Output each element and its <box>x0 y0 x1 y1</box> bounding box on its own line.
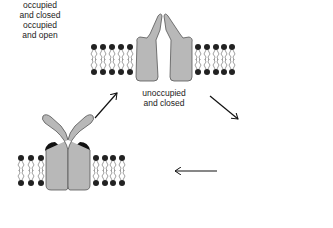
state-unoccupied-closed <box>91 14 235 81</box>
lipid-bilayer-left <box>91 44 133 75</box>
arrow-to-unoccupied-closed <box>95 93 117 118</box>
state-occupied-closed <box>18 115 125 190</box>
channel-gating-diagram: unoccupied and closed <box>0 0 333 228</box>
arrow-to-occupied-open <box>210 96 238 119</box>
lipid-bilayer-right <box>195 44 235 75</box>
channel-subunit-left <box>136 14 162 81</box>
state-label-unoccupied-closed: unoccupied and closed <box>124 88 204 108</box>
label-line1: unoccupied <box>124 88 204 98</box>
channel-subunit-right <box>68 115 94 190</box>
lipid-bilayer-left <box>18 155 44 186</box>
channel-subunit-right <box>164 14 192 81</box>
label-line2: and closed <box>124 98 204 108</box>
lipid-bilayer-right <box>93 155 125 186</box>
channel-subunit-left <box>42 115 68 190</box>
